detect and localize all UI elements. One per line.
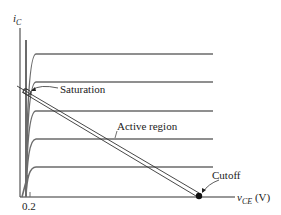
tick-label-0.2: 0.2	[22, 201, 36, 212]
active-region-label: Active region	[117, 121, 177, 132]
y-axis-label: iC	[13, 13, 21, 27]
saturation-label: Saturation	[60, 84, 105, 95]
saturation-arrow	[32, 86, 58, 90]
x-axis-label: vCE (V)	[237, 192, 270, 206]
active-pointer	[115, 131, 117, 138]
chart-canvas	[0, 0, 281, 215]
curve-ib2	[26, 139, 213, 197]
bjt-characteristic-diagram: iC Saturation Active region Cutoff vCE (…	[0, 0, 281, 215]
cutoff-label: Cutoff	[212, 170, 241, 181]
cutoff-point	[196, 193, 202, 199]
curve-ib1	[26, 167, 213, 197]
load-line	[17, 86, 201, 197]
